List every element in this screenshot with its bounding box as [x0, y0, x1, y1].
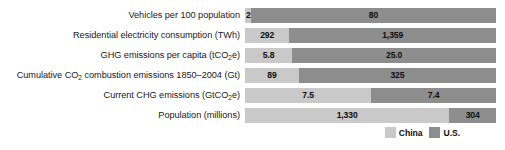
- chart-rows: Vehicles per 100 population280Residentia…: [4, 7, 496, 123]
- chart-row: Population (millions)1,330304: [4, 107, 496, 123]
- stacked-bar: 7.57.4: [245, 88, 496, 103]
- bar-segment-us: 25.0: [292, 48, 496, 63]
- bar-segment-china: 292: [245, 28, 289, 43]
- segment-value-label: 7.5: [302, 90, 314, 100]
- segment-value-label: 292: [260, 30, 274, 40]
- segment-value-label: 80: [369, 10, 378, 20]
- legend-label: China: [399, 128, 423, 138]
- chart-row: Cumulative CO2 combustion emissions 1850…: [4, 67, 496, 83]
- bar-segment-us: 7.4: [371, 88, 496, 103]
- segment-value-label: 1,330: [337, 110, 358, 120]
- segment-value-label: 2: [246, 10, 251, 20]
- bar-segment-us: 1,359: [289, 28, 496, 43]
- legend-swatch-icon: [429, 127, 440, 138]
- bar-segment-china: 1,330: [245, 108, 449, 123]
- segment-value-label: 1,359: [382, 30, 403, 40]
- legend-item: China: [385, 127, 423, 138]
- stacked-bar-chart: Vehicles per 100 population280Residentia…: [0, 0, 505, 150]
- stacked-bar: 280: [245, 8, 496, 23]
- segment-value-label: 7.4: [428, 90, 440, 100]
- bar-segment-china: 7.5: [245, 88, 371, 103]
- legend-swatch-icon: [385, 127, 396, 138]
- stacked-bar: 2921,359: [245, 28, 496, 43]
- bar-segment-us: 80: [251, 8, 496, 23]
- bar-segment-us: 325: [299, 68, 496, 83]
- segment-value-label: 5.8: [263, 50, 275, 60]
- legend-label: U.S.: [443, 128, 460, 138]
- segment-value-label: 89: [267, 70, 276, 80]
- chart-row: GHG emissions per capita (tCO2e)5.825.0: [4, 47, 496, 63]
- bar-segment-china: 5.8: [245, 48, 292, 63]
- chart-row: Current CHG emissions (GtCO2e)7.57.4: [4, 87, 496, 103]
- chart-row: Residential electricity consumption (TWh…: [4, 27, 496, 43]
- bar-segment-us: 304: [449, 108, 496, 123]
- chart-legend: ChinaU.S.: [4, 127, 496, 138]
- stacked-bar: 1,330304: [245, 108, 496, 123]
- bar-segment-china: 89: [245, 68, 299, 83]
- stacked-bar: 5.825.0: [245, 48, 496, 63]
- row-label: Vehicles per 100 population: [4, 10, 245, 21]
- stacked-bar: 89325: [245, 68, 496, 83]
- row-label: Population (millions): [4, 110, 245, 121]
- row-label: Current CHG emissions (GtCO2e): [4, 90, 245, 101]
- segment-value-label: 325: [390, 70, 404, 80]
- row-label: Cumulative CO2 combustion emissions 1850…: [4, 70, 245, 81]
- legend-item: U.S.: [429, 127, 460, 138]
- row-label: Residential electricity consumption (TWh…: [4, 30, 245, 41]
- row-label: GHG emissions per capita (tCO2e): [4, 50, 245, 61]
- chart-row: Vehicles per 100 population280: [4, 7, 496, 23]
- segment-value-label: 304: [466, 110, 480, 120]
- segment-value-label: 25.0: [386, 50, 402, 60]
